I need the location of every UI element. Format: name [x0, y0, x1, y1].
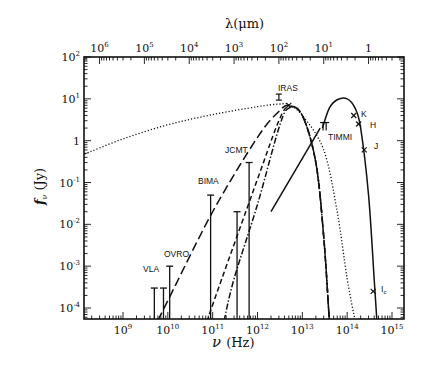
label-h: H	[370, 120, 376, 130]
curve-long-dash	[158, 105, 329, 320]
label-bima: BIMA	[198, 176, 219, 186]
label-jcmt: JCMT	[225, 145, 248, 155]
svg-text:101: 101	[314, 41, 332, 55]
svg-text:10-3: 10-3	[59, 259, 80, 273]
svg-text:1: 1	[73, 135, 80, 148]
x2-tick-labels: 1061051041031021011	[90, 41, 372, 55]
svg-text:1013: 1013	[291, 323, 314, 337]
y-axis-title: fν(Jy)	[32, 168, 49, 206]
svg-text:103: 103	[225, 41, 243, 55]
svg-text:1: 1	[365, 42, 372, 55]
svg-text:106: 106	[90, 41, 109, 55]
label-timmi: TIMMI	[328, 132, 352, 142]
upper-limits	[151, 163, 253, 319]
svg-text:101: 101	[62, 92, 80, 106]
svg-text:10-2: 10-2	[59, 217, 80, 231]
x-tick-labels: 109101010111012101310141015	[114, 323, 404, 337]
label-j: J	[374, 141, 378, 151]
svg-text:102: 102	[62, 50, 80, 64]
svg-text:104: 104	[180, 41, 199, 55]
label-ovro: OVRO	[164, 249, 189, 259]
svg-text:105: 105	[135, 41, 153, 55]
label-ic: Ic	[381, 284, 386, 295]
axis-ticks	[84, 57, 404, 319]
sed-chart: 109101010111012101310141015 106105104103…	[0, 0, 427, 371]
svg-text:1014: 1014	[336, 323, 359, 337]
svg-text:10-1: 10-1	[59, 176, 80, 190]
svg-text:109: 109	[114, 323, 132, 337]
label-k: K	[361, 109, 367, 119]
curve-solid	[271, 128, 320, 212]
label-iras: IRAS	[278, 83, 298, 93]
svg-text:1010: 1010	[156, 323, 179, 337]
svg-text:10-4: 10-4	[59, 301, 80, 315]
label-vla: VLA	[143, 264, 159, 274]
svg-text:102: 102	[270, 41, 288, 55]
x2-axis-title: λ(μm)	[225, 16, 264, 31]
y-tick-labels: 102101110-110-210-310-4	[59, 50, 80, 315]
svg-text:1015: 1015	[381, 323, 404, 337]
x-axis-title: ν(Hz)	[212, 333, 254, 351]
plot-frame	[84, 57, 404, 319]
